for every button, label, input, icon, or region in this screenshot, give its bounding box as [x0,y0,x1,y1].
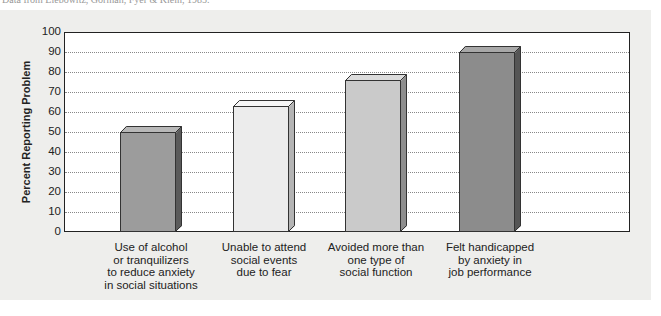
y-tick-label: 10 [0,205,61,217]
bar [233,100,295,232]
x-category-label: Felt handicappedby anxiety injob perform… [425,241,555,279]
x-category-label-line: by anxiety in [425,254,555,267]
x-category-label-line: due to fear [199,266,329,279]
bar [459,46,521,232]
x-category-label: Avoided more thanone type ofsocial funct… [311,241,441,279]
x-category-label: Unable to attendsocial eventsdue to fear [199,241,329,279]
gridline [65,72,629,73]
x-category-label-line: Felt handicapped [425,241,555,254]
bar [120,126,182,232]
x-category-label-line: social events [199,254,329,267]
x-category-label-line: or tranquilizers [86,254,216,267]
source-caption: Data from Liebowitz, Gorman, Fyer & Klei… [2,0,209,5]
x-category-label-line: social function [311,266,441,279]
bar [345,74,407,232]
gridline [65,52,629,53]
x-category-label-line: Use of alcohol [86,241,216,254]
y-tick-label: 100 [0,25,61,37]
x-category-label-line: job performance [425,266,555,279]
x-category-label: Use of alcoholor tranquilizersto reduce … [86,241,216,291]
x-category-label-line: to reduce anxiety [86,266,216,279]
x-category-label-line: Unable to attend [199,241,329,254]
x-category-label-line: in social situations [86,279,216,292]
x-category-label-line: one type of [311,254,441,267]
x-category-label-line: Avoided more than [311,241,441,254]
y-tick-label: 90 [0,45,61,57]
y-tick-label: 0 [0,225,61,237]
y-axis-label: Percent Reporting Problem [20,61,32,203]
